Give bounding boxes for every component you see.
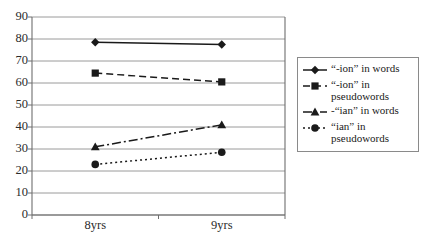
- legend-label: “-ion” in pseudowords: [331, 78, 389, 103]
- legend-label: “-ion” in words: [331, 62, 399, 74]
- legend-swatch-triangle-icon: [302, 105, 328, 119]
- legend-label: -“ian” in words: [331, 104, 399, 116]
- series-0: [91, 38, 226, 49]
- legend-item-2: -“ian” in words: [302, 104, 414, 119]
- legend-label: “ian” in pseudowords: [331, 120, 389, 145]
- series-3: [91, 149, 225, 169]
- data-point-square: [311, 82, 318, 89]
- series-line: [95, 73, 222, 82]
- data-point-circle: [91, 161, 99, 169]
- data-point-square: [218, 78, 225, 85]
- line-chart-figure: 9080706050403020100 8yrs9yrs “-ion” in w…: [0, 0, 428, 233]
- legend-item-3: “ian” in pseudowords: [302, 120, 414, 145]
- data-point-circle: [218, 149, 226, 157]
- x-axis-tick-labels: 8yrs9yrs: [0, 212, 290, 233]
- data-point-triangle: [217, 120, 226, 128]
- series-line: [95, 152, 222, 164]
- data-point-diamond: [218, 40, 226, 48]
- data-point-diamond: [311, 66, 319, 74]
- series-2: [91, 120, 226, 150]
- legend-item-0: “-ion” in words: [302, 62, 414, 77]
- x-tick-label-8yrs: 8yrs: [65, 218, 125, 232]
- legend-swatch-square-icon: [302, 79, 328, 93]
- data-point-circle: [311, 124, 319, 132]
- legend-swatch-diamond-icon: [302, 63, 328, 77]
- x-tick-label-9yrs: 9yrs: [192, 218, 252, 232]
- legend-swatch-circle-icon: [302, 121, 328, 135]
- legend-item-1: “-ion” in pseudowords: [302, 78, 414, 103]
- chart-legend: “-ion” in words“-ion” in pseudowords-“ia…: [297, 57, 419, 152]
- series-line: [95, 42, 222, 44]
- data-point-square: [92, 70, 99, 77]
- series-line: [95, 125, 222, 147]
